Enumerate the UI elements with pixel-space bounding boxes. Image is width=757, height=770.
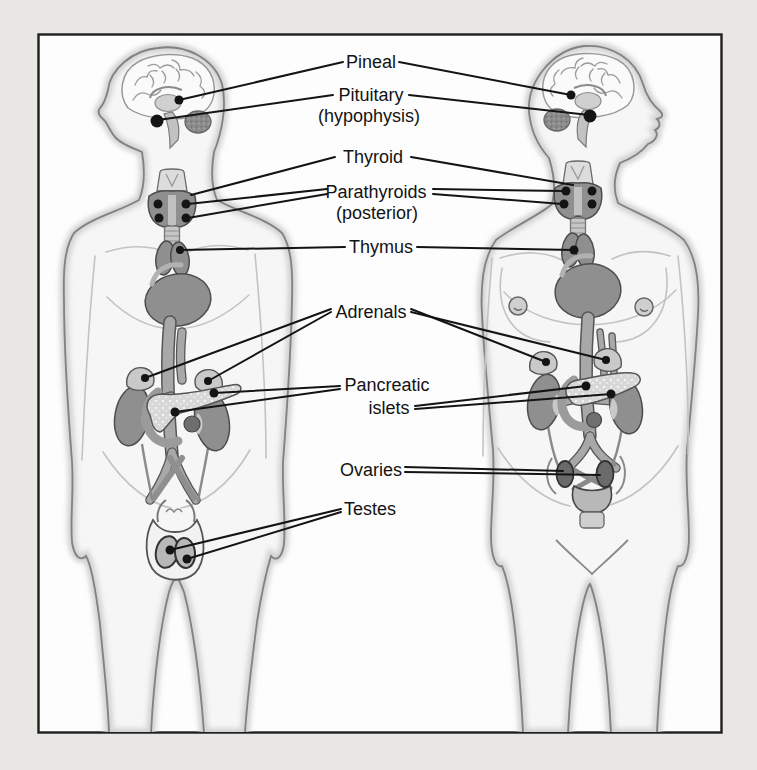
thymus-dot-female — [570, 246, 579, 255]
label-thymus: Thymus — [349, 237, 413, 257]
adrenal-dot-male-right — [204, 377, 212, 385]
pineal-dot-male — [175, 96, 184, 105]
adrenal-dot-female-left — [542, 358, 550, 366]
label-islets: islets — [368, 398, 409, 418]
label-pineal: Pineal — [346, 52, 396, 72]
parathyroid-dot-female-4 — [588, 200, 597, 209]
female-thyroid-isthmus — [574, 187, 582, 215]
male-mesenteric-vessel — [184, 416, 200, 432]
label-adrenals: Adrenals — [335, 302, 406, 322]
parathyroid-dot-female-2 — [588, 187, 597, 196]
testis-dot-left — [166, 546, 175, 555]
label-pituitary-sub: (hypophysis) — [318, 106, 420, 126]
female-nipple-left — [509, 297, 527, 315]
parathyroid-dot-female-1 — [562, 187, 571, 196]
male-thyroid-isthmus — [168, 195, 176, 225]
pituitary-dot-male — [151, 115, 164, 128]
label-testes: Testes — [344, 499, 396, 519]
pancreas-dot-female-1 — [582, 382, 591, 391]
thymus-dot-male — [176, 246, 184, 254]
book-page: Pineal Pituitary (hypophysis) Thyroid Pa… — [0, 0, 757, 770]
female-thalamus — [575, 93, 601, 110]
label-parathyroids: Parathyroids — [325, 182, 426, 202]
male-adrenal-left — [127, 368, 154, 391]
testis-dot-right — [183, 555, 192, 564]
pineal-dot-female — [567, 91, 576, 100]
parathyroid-dot-male-3 — [155, 214, 164, 223]
parathyroid-dot-male-1 — [154, 200, 163, 209]
label-pituitary: Pituitary — [338, 85, 403, 105]
cervix-vagina — [580, 512, 604, 528]
endocrine-system-diagram: Pineal Pituitary (hypophysis) Thyroid Pa… — [0, 0, 757, 770]
label-thyroid: Thyroid — [343, 147, 403, 167]
label-ovaries: Ovaries — [340, 460, 402, 480]
female-nipple-right — [635, 298, 653, 316]
pancreas-dot-male-1 — [210, 389, 219, 398]
pituitary-dot-female — [584, 110, 597, 123]
parathyroid-dot-male-4 — [182, 214, 191, 223]
label-pancreatic: Pancreatic — [344, 375, 429, 395]
parathyroid-dot-female-3 — [560, 200, 569, 209]
adrenal-dot-female-right — [602, 356, 610, 364]
uterus — [572, 486, 611, 512]
female-larynx — [563, 161, 593, 184]
male-larynx — [157, 169, 187, 191]
pancreas-dot-male-2 — [171, 408, 180, 417]
female-mesenteric-vessel — [587, 413, 602, 428]
label-parathyroids-sub: (posterior) — [336, 203, 418, 223]
parathyroid-dot-male-2 — [182, 200, 191, 209]
adrenal-dot-male-left — [141, 374, 149, 382]
pancreas-dot-female-2 — [607, 390, 616, 399]
